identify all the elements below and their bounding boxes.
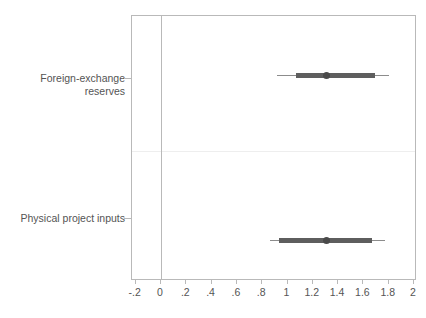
x-axis-tick-5: [261, 280, 262, 284]
inner-confidence-interval-bar: [296, 73, 374, 78]
confidence-interval-row-foreign-exchange-reserves: [132, 70, 415, 82]
y-axis-label-foreign-exchange-reserves: Foreign-exchange reserves: [40, 72, 125, 97]
x-axis-tick-0: [135, 280, 136, 284]
x-axis-tick-8: [337, 280, 338, 284]
x-axis-tick-4: [236, 280, 237, 284]
plot-area: [131, 15, 416, 280]
x-axis-tick-10: [388, 280, 389, 284]
x-axis-tick-9: [362, 280, 363, 284]
x-axis-tick-11: [413, 280, 414, 284]
x-axis-tick-label-11: 2: [396, 286, 426, 298]
y-axis-label-physical-project-inputs: Physical project inputs: [21, 212, 125, 225]
x-axis-tick-2: [185, 280, 186, 284]
confidence-interval-row-physical-project-inputs: [132, 235, 415, 247]
x-axis-tick-7: [312, 280, 313, 284]
y-axis-tick-0: [124, 78, 131, 79]
x-axis-tick-1: [160, 280, 161, 284]
x-axis-tick-3: [211, 280, 212, 284]
coefficient-plot: Foreign-exchange reserves Physical proje…: [0, 0, 426, 318]
y-axis-tick-1: [124, 218, 131, 219]
panel-divider: [132, 151, 415, 152]
x-axis-tick-6: [287, 280, 288, 284]
